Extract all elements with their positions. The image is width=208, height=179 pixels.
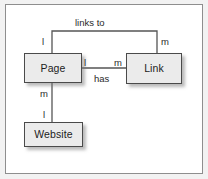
cardinality-page-website-page-side: m <box>40 89 48 99</box>
entity-page-label: Page <box>41 63 66 74</box>
relationship-label-links-to: links to <box>75 18 105 28</box>
relationship-label-has: has <box>94 74 109 84</box>
cardinality-links-to-link-side: m <box>161 37 169 47</box>
entity-website-label: Website <box>34 129 72 140</box>
cardinality-has-link-side: m <box>114 58 122 68</box>
cardinality-links-to-page-side: l <box>42 37 44 47</box>
diagram-canvas-root: Page Link Website links to has l m l m m… <box>0 0 208 179</box>
entity-link-label: Link <box>144 63 164 74</box>
entity-website[interactable]: Website <box>24 122 83 147</box>
connector-links-to <box>52 31 157 53</box>
cardinality-has-page-side: l <box>84 58 86 68</box>
entity-page[interactable]: Page <box>24 53 82 83</box>
entity-link[interactable]: Link <box>126 53 182 84</box>
cardinality-page-website-website-side: l <box>43 110 45 120</box>
